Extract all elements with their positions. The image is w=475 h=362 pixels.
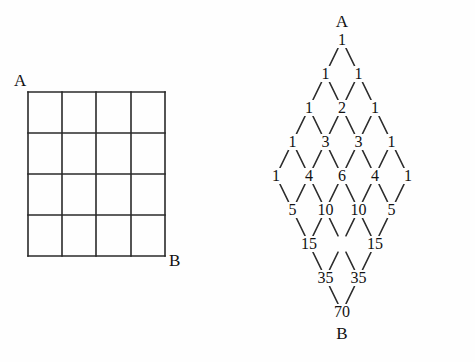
- pascal-edge: [313, 82, 322, 100]
- pascal-edge: [296, 218, 305, 236]
- pascal-edge: [313, 218, 322, 236]
- pascal-node-value: 15: [366, 236, 384, 252]
- pascal-edge: [379, 116, 388, 134]
- figure-page: A B 1111211331146415101051515353570 A B: [0, 0, 475, 362]
- grid-drawing: [0, 0, 200, 362]
- pascal-node-value: 3: [354, 134, 364, 150]
- pascal-edge: [329, 116, 338, 134]
- pascal-edge: [379, 184, 388, 202]
- pascal-edge: [329, 286, 338, 304]
- pascal-edge: [346, 116, 355, 134]
- pascal-edge: [329, 252, 338, 270]
- pascal-node-value: 1: [403, 168, 413, 184]
- pascal-edge: [329, 48, 338, 66]
- pascal-edge: [362, 116, 371, 134]
- pascal-node-value: 1: [387, 134, 397, 150]
- pascal-edge: [346, 82, 355, 100]
- pascal-node-value: 1: [321, 66, 331, 82]
- pascal-edge: [346, 286, 355, 304]
- pascal-node-value: 1: [370, 100, 380, 116]
- pascal-node-value: 5: [288, 202, 298, 218]
- pascal-edge: [379, 218, 388, 236]
- pascal-edge: [313, 150, 322, 168]
- pascal-edge: [362, 252, 371, 270]
- pascal-node-value: 5: [387, 202, 397, 218]
- pascal-node-value: 1: [271, 168, 281, 184]
- pascal-edge: [395, 184, 404, 202]
- pascal-edge: [362, 218, 371, 236]
- pascal-edge: [362, 82, 371, 100]
- pascal-edge: [329, 184, 338, 202]
- pascal-edge: [329, 218, 338, 236]
- pascal-node-value: 10: [350, 202, 368, 218]
- grid-corner-label-b: B: [169, 252, 180, 269]
- grid-corner-label-a: A: [14, 72, 26, 89]
- pascal-diamond-figure: 1111211331146415101051515353570 A B: [200, 0, 475, 362]
- pascal-edge: [313, 184, 322, 202]
- pascal-node-value: 4: [370, 168, 380, 184]
- pascal-node-value: 4: [304, 168, 314, 184]
- pascal-node-value: 70: [333, 304, 351, 320]
- pascal-node-value: 1: [337, 32, 347, 48]
- pascal-node-value: 10: [317, 202, 335, 218]
- pascal-node-value: 3: [321, 134, 331, 150]
- pascal-edge: [313, 252, 322, 270]
- pascal-edge: [346, 48, 355, 66]
- pascal-node-value: 35: [317, 270, 335, 286]
- pascal-edge: [346, 218, 355, 236]
- pascal-edge: [296, 150, 305, 168]
- pascal-edge: [395, 150, 404, 168]
- pascal-edge: [296, 116, 305, 134]
- pascal-edge: [280, 150, 289, 168]
- pascal-edge: [296, 184, 305, 202]
- pascal-edge: [362, 184, 371, 202]
- pascal-node-value: 2: [337, 100, 347, 116]
- pascal-node-value: 1: [354, 66, 364, 82]
- pascal-node-value: 1: [304, 100, 314, 116]
- pascal-edge: [329, 150, 338, 168]
- diamond-endpoint-label-a: A: [336, 13, 348, 30]
- pascal-node-value: 35: [350, 270, 368, 286]
- pascal-edge: [346, 252, 355, 270]
- pascal-node-value: 1: [288, 134, 298, 150]
- diamond-endpoint-label-b: B: [336, 325, 347, 342]
- pascal-node-value: 6: [337, 168, 347, 184]
- pascal-edge: [313, 116, 322, 134]
- pascal-edge: [379, 150, 388, 168]
- pascal-node-value: 15: [300, 236, 318, 252]
- pascal-edge: [362, 150, 371, 168]
- pascal-edge: [280, 184, 289, 202]
- pascal-edge: [329, 82, 338, 100]
- pascal-edge: [346, 150, 355, 168]
- pascal-edge: [346, 184, 355, 202]
- grid-figure: A B: [0, 0, 200, 362]
